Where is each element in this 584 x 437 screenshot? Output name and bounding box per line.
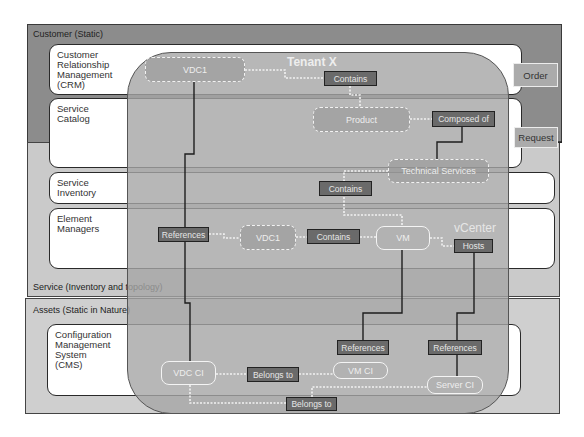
relation-composed-of: Composed of [432, 111, 495, 127]
relation-contains-top: Contains [324, 71, 377, 86]
node-vm-ci: VM CI [333, 362, 388, 379]
relation-references-server: References [428, 340, 482, 355]
node-vdc-ci: VDC CI [161, 361, 216, 385]
node-server-ci: Server CI [427, 376, 483, 394]
connector-contains-to-product [350, 86, 360, 107]
connector-belongs-to-bottom-to-server-ci [312, 387, 427, 397]
relation-references-left: References [158, 227, 209, 242]
connector-vdc1-to-vdc-ci [185, 82, 194, 361]
relation-contains-vm: Contains [307, 229, 360, 244]
connector-hosts-to-references [457, 253, 474, 340]
connector-vdc-ci-to-belongs-to-bottom [190, 385, 286, 403]
relation-contains-mid: Contains [319, 181, 372, 196]
relation-hosts: Hosts [454, 239, 493, 253]
node-technical-services: Technical Services [388, 159, 489, 183]
relation-belongs-to-bottom: Belongs to [286, 397, 337, 411]
node-vdc1-mid: VDC1 [240, 225, 296, 250]
relation-references-vm: References [337, 340, 389, 355]
node-vdc1-top: VDC1 [145, 57, 245, 82]
connector-vm-to-hosts [430, 238, 454, 246]
node-vm: VM [376, 226, 430, 250]
connector-vdc1-to-contains [245, 70, 324, 78]
relation-belongs-to-mid: Belongs to [247, 367, 299, 382]
node-product: Product [313, 107, 410, 132]
connector-references-to-vdc1 [209, 234, 240, 238]
connector-vm-to-references [363, 250, 402, 340]
connector-composed-of-to-technical-services [437, 127, 462, 159]
